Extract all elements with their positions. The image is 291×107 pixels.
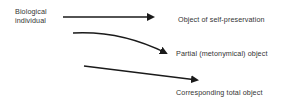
target-label-partial-object: Partial (metonymical) object — [176, 50, 267, 59]
arrow-to-total-object — [84, 66, 197, 80]
source-label: Biological individual — [15, 8, 47, 25]
arrow-to-partial-object — [73, 33, 166, 53]
target-label-total-object: Corresponding total object — [176, 89, 263, 98]
target-label-self-preservation: Object of self-preservation — [178, 16, 265, 25]
source-label-line2: individual — [15, 17, 47, 26]
